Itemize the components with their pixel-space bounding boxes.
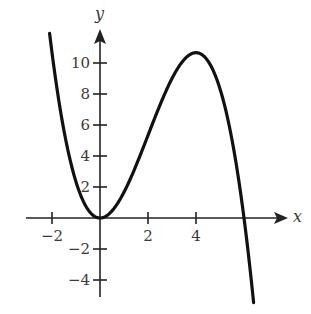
- y-tick-label: −4: [68, 271, 90, 289]
- y-tick-label: −2: [68, 240, 90, 258]
- function-curve: [50, 33, 254, 302]
- function-graph: −224−4−2246810 x y: [0, 0, 311, 314]
- y-axis-label: y: [94, 4, 105, 23]
- x-tick-label: 2: [143, 227, 153, 245]
- plot-area: −224−4−2246810 x y: [0, 0, 311, 314]
- x-tick-label: −2: [41, 227, 63, 245]
- cropped-caption-fragment: [0, 0, 220, 3]
- y-tick-label: 4: [80, 147, 90, 165]
- y-tick-label: 8: [80, 85, 90, 103]
- y-tick-label: 6: [80, 116, 90, 134]
- tick-labels: −224−4−2246810: [41, 54, 201, 289]
- y-tick-label: 10: [71, 54, 90, 72]
- x-tick-label: 4: [191, 227, 201, 245]
- x-axis-label: x: [293, 207, 302, 226]
- y-tick-label: 2: [80, 178, 90, 196]
